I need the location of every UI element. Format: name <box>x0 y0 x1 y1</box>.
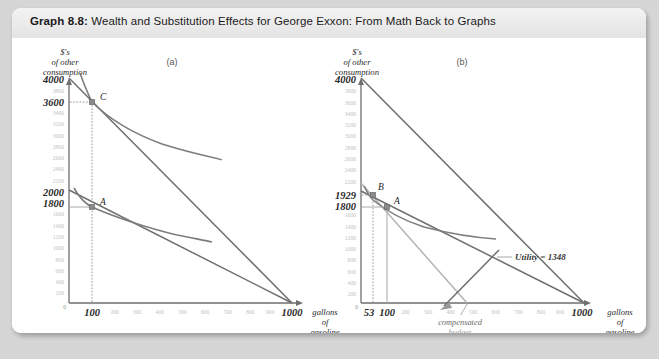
panel-a-ytick-3800: 3800 <box>53 88 64 94</box>
panel-b-ytick-1600: 1600 <box>345 212 356 218</box>
panel-b-ytick-4000: 4000 <box>334 74 357 85</box>
panel-b-xtick-0: 0 <box>355 304 358 310</box>
panel-b-ytick-2200: 2200 <box>345 179 356 185</box>
panel-b-ytick-1400: 1400 <box>345 224 356 230</box>
panel-b-xtick-400: 400 <box>446 309 455 315</box>
panel-a-yaxis-title-line1: $'s <box>60 47 70 57</box>
panel-a-xaxis-title-line2: of <box>322 317 330 327</box>
panel-a-xtick-700: 700 <box>223 309 232 315</box>
panel-b-xtick-200: 200 <box>401 309 410 315</box>
panel-a-ytick-1800: 1800 <box>43 198 65 209</box>
panel-a-xtick-1000: 1000 <box>282 307 304 318</box>
panel-b-ytick-2800: 2800 <box>345 145 356 151</box>
panel-a-ytick-3400: 3400 <box>53 110 64 116</box>
panel-a-ytick-600: 600 <box>56 268 65 274</box>
panel-b-xtick-600: 600 <box>492 309 501 315</box>
panel-b-point-b <box>371 193 376 198</box>
panel-a-xtick-400: 400 <box>156 309 165 315</box>
figure-plot-area: (a) $'s of other consumption 3800 3400 3… <box>12 38 646 333</box>
panel-b-xtick-300: 300 <box>424 309 433 315</box>
panel-b-ytick-1200: 1200 <box>345 235 356 241</box>
panel-b-xaxis-title-line3: gasoline <box>605 327 634 333</box>
panel-b-point-a-label: A <box>393 196 400 206</box>
panel-a-xtick-500: 500 <box>178 309 187 315</box>
panel-a-xtick-200: 200 <box>110 309 119 315</box>
panel-a-yaxis-title-line2: of other <box>52 57 80 67</box>
panel-a-indifference-curve-a <box>74 188 212 242</box>
panel-b-ytick-2600: 2600 <box>345 156 356 162</box>
panel-a-ytick-800: 800 <box>56 257 65 263</box>
panel-b-ytick-400: 400 <box>348 280 357 286</box>
panel-a-ytick-3600: 3600 <box>42 97 65 108</box>
figure-title: Graph 8.8: Wealth and Substitution Effec… <box>30 15 496 27</box>
panel-a-point-c-label: C <box>100 92 107 102</box>
panel-a-xtick-800: 800 <box>246 309 255 315</box>
figure-label: Graph 8.8: <box>30 15 88 27</box>
panel-b-x-axis-arrow <box>584 300 591 306</box>
panel-b-ytick-3600: 3600 <box>345 100 356 106</box>
panel-b-ytick-3800: 3800 <box>345 88 356 94</box>
panel-a-ytick-2000: 2000 <box>42 187 65 198</box>
panel-a-point-c <box>90 100 95 105</box>
panel-a-xtick-100: 100 <box>84 307 101 318</box>
panel-b-yaxis-title-line1: $'s <box>352 47 362 57</box>
panel-a-ytick-2600: 2600 <box>53 155 64 161</box>
panel-b-point-a <box>385 205 390 210</box>
panel-a-ytick-2200: 2200 <box>53 178 64 184</box>
panel-a-xaxis-title-line1: gallons <box>312 307 338 317</box>
panel-b-xtick-1000: 1000 <box>572 307 594 318</box>
panel-b-xtick-700: 700 <box>514 309 523 315</box>
panel-a-x-axis-arrow <box>296 300 303 306</box>
panel-b: (b) $'s of other consumption 3800 3600 3… <box>334 47 635 333</box>
panel-b-ytick-1929: 1929 <box>335 190 357 201</box>
panel-b-xtick-900: 900 <box>556 309 565 315</box>
panel-a-point-a-label: A <box>99 197 106 207</box>
panel-a-ytick-200: 200 <box>56 290 65 296</box>
panel-b-ytick-1000: 1000 <box>345 246 356 252</box>
panel-b-point-b-label: B <box>378 182 384 192</box>
panel-b-ytick-3400: 3400 <box>345 111 356 117</box>
panel-b-ytick-200: 200 <box>348 291 357 297</box>
panel-b-label: (b) <box>457 57 468 67</box>
panel-b-original-budget-line <box>361 78 584 303</box>
panel-b-final-budget-line <box>361 191 584 303</box>
panel-b-compensated-budget-line <box>361 183 467 303</box>
panel-b-xaxis-title-line2: of <box>617 317 625 327</box>
panel-a-ytick-1600: 1600 <box>53 211 64 217</box>
panel-b-ytick-2400: 2400 <box>345 167 356 173</box>
panel-a-xtick-0: 0 <box>63 304 66 310</box>
panel-b-yaxis-title-line2: of other <box>344 57 372 67</box>
figure-svg: (a) $'s of other consumption 3800 3400 3… <box>12 38 646 333</box>
panel-b-xtick-500: 500 <box>469 309 478 315</box>
panel-a-xaxis-title-line3: gasoline <box>310 327 339 333</box>
figure-titlebar: Graph 8.8: Wealth and Substitution Effec… <box>12 8 646 39</box>
panel-a: (a) $'s of other consumption 3800 3400 3… <box>42 47 340 333</box>
panel-a-ytick-2800: 2800 <box>53 144 64 150</box>
panel-b-compensated-budget-label-line1: compensated <box>438 318 483 327</box>
panel-b-compensated-budget-label-line2: budget <box>449 328 472 333</box>
panel-b-ytick-1800: 1800 <box>335 201 357 212</box>
panel-a-indifference-curve-c <box>80 73 222 160</box>
panel-b-xtick-53: 53 <box>364 307 375 318</box>
figure-title-text: Wealth and Substitution Effects for Geor… <box>91 15 496 27</box>
panel-a-xtick-900: 900 <box>266 309 275 315</box>
panel-a-ytick-1200: 1200 <box>53 234 64 240</box>
panel-b-xtick-100: 100 <box>379 307 396 318</box>
panel-a-xtick-300: 300 <box>133 309 142 315</box>
panel-a-ytick-3000: 3000 <box>53 133 64 139</box>
panel-b-ytick-3000: 3000 <box>345 133 356 139</box>
panel-a-ytick-400: 400 <box>56 279 65 285</box>
panel-b-ytick-3200: 3200 <box>345 122 356 128</box>
panel-b-utility-label: Utility = 1348 <box>515 252 566 262</box>
panel-b-compensated-budget-leader <box>461 304 467 315</box>
panel-b-ytick-600: 600 <box>348 269 357 275</box>
panel-a-ytick-1000: 1000 <box>53 245 64 251</box>
panel-a-ytick-3200: 3200 <box>53 121 64 127</box>
panel-a-ytick-2400: 2400 <box>53 166 64 172</box>
panel-b-ytick-800: 800 <box>348 257 357 263</box>
panel-b-xaxis-title-line1: gallons <box>607 307 633 317</box>
panel-b-xtick-800: 800 <box>537 309 546 315</box>
panel-b-shift-arrow-line <box>444 250 499 306</box>
panel-a-label: (a) <box>167 57 178 67</box>
panel-a-ytick-4000: 4000 <box>42 74 65 85</box>
